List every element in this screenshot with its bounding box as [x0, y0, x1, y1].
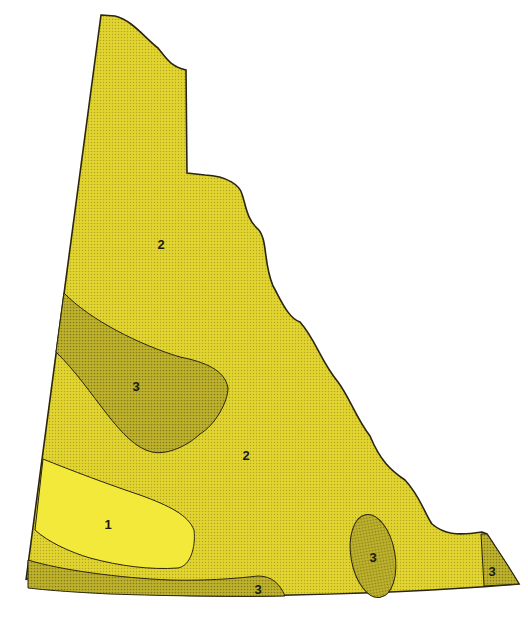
- zone-label: 3: [254, 582, 261, 597]
- zone3-east-corner-region: [481, 534, 519, 586]
- zone-map: 2 3 2 1 3 3 3: [0, 0, 528, 623]
- zone-label: 2: [242, 448, 249, 463]
- zone-label: 1: [104, 517, 111, 532]
- zone-label: 3: [369, 550, 376, 565]
- zone-label: 3: [488, 564, 495, 579]
- zone-label: 2: [157, 237, 164, 252]
- zone-label: 3: [132, 379, 139, 394]
